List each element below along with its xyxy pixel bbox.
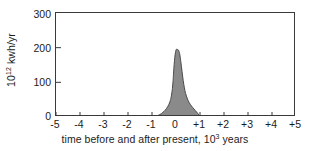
y-tick-label-100: 100	[5, 77, 51, 87]
x-axis-label-text: time before and after present,	[62, 133, 204, 145]
chart-figure: 1012 kwh/yr 300 200 100 0 -5-4-3-2-10+1+…	[0, 0, 310, 151]
y-tick-label-300: 300	[5, 9, 51, 19]
y-tick-label-200: 200	[5, 43, 51, 53]
x-tick-label-p5: +5	[280, 118, 310, 131]
plot-area	[55, 12, 295, 116]
plot-canvas	[56, 13, 295, 116]
x-axis-label: time before and after present, 103 years	[0, 133, 310, 146]
x-axis-label-unit: years	[220, 133, 249, 145]
x-axis-label-mantissa: 10	[204, 133, 216, 145]
data-area-series	[56, 49, 295, 116]
x-axis-tick-labels: -5-4-3-2-10+1+2+3+4+5	[55, 118, 295, 132]
